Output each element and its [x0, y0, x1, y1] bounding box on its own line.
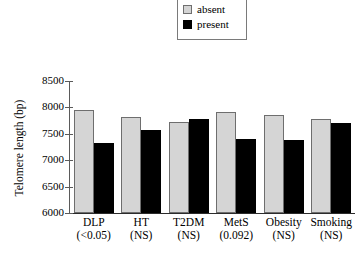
- y-tick-label: 7500: [42, 128, 64, 139]
- bar-mets-absent: [216, 112, 236, 213]
- bar-ht-absent: [121, 117, 141, 213]
- legend-item-present: present: [183, 18, 246, 31]
- legend-item-absent: absent: [183, 3, 246, 16]
- x-label-smoking: Smoking(NS): [300, 216, 361, 242]
- y-tick-label: 8500: [42, 75, 64, 86]
- legend-label-absent: absent: [197, 4, 225, 15]
- x-axis-line: [69, 213, 355, 214]
- bar-ht-present: [141, 130, 161, 213]
- legend-swatch-absent-icon: [183, 5, 192, 14]
- legend-swatch-present-icon: [183, 20, 192, 29]
- bar-smoking-present: [331, 123, 351, 213]
- y-tick-label: 7000: [42, 154, 64, 165]
- y-tick-mark: [65, 213, 73, 214]
- bar-dlp-absent: [74, 110, 94, 213]
- legend-label-present: present: [197, 19, 229, 30]
- y-tick-label: 8000: [42, 101, 64, 112]
- bar-plot-area: [70, 81, 355, 213]
- bar-t2dm-present: [189, 119, 209, 213]
- bar-t2dm-absent: [169, 122, 189, 213]
- bar-obesity-absent: [264, 115, 284, 213]
- bar-dlp-present: [94, 143, 114, 213]
- y-tick-label: 6000: [42, 207, 64, 218]
- chart-legend: absent present: [177, 0, 247, 40]
- y-tick-label: 6500: [42, 181, 64, 192]
- bar-smoking-absent: [311, 119, 331, 213]
- x-label-pvalue: (NS): [300, 229, 361, 242]
- bar-obesity-present: [284, 140, 304, 213]
- bar-mets-present: [236, 139, 256, 213]
- y-axis-title: Telomere length (bp): [13, 78, 25, 218]
- x-label-category: Smoking: [300, 216, 361, 229]
